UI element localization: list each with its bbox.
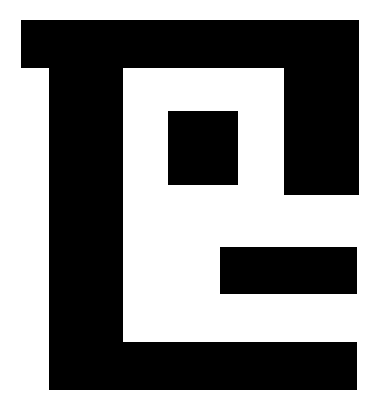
- logo-right-column: [284, 20, 359, 195]
- logo-middle-bar: [220, 247, 357, 294]
- logo: [0, 0, 377, 404]
- logo-inner-square: [168, 111, 238, 185]
- logo-left-stem: [49, 20, 123, 390]
- logo-bottom-bar: [49, 342, 357, 390]
